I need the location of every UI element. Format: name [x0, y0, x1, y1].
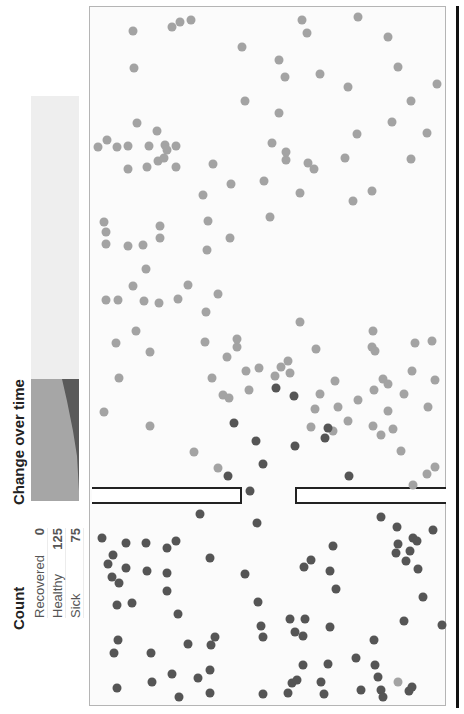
count-value-recovered: 0	[32, 528, 47, 535]
count-row-sick: Sick 75	[68, 528, 84, 618]
count-row-recovered: Recovered 0	[32, 528, 48, 618]
change-over-time-title: Change over time	[10, 379, 27, 505]
count-label-sick: Sick	[68, 593, 83, 618]
count-value-sick: 75	[68, 528, 83, 542]
wall-left-segment	[92, 487, 242, 504]
right-edge-bar	[456, 6, 459, 708]
count-value-healthy: 125	[50, 528, 65, 550]
count-label-healthy: Healthy	[50, 574, 65, 618]
side-panel: Count Recovered 0 Healthy 125 Sick 75 Ch…	[0, 0, 86, 714]
count-label-recovered: Recovered	[32, 555, 47, 618]
change-over-time-chart	[31, 96, 79, 501]
count-title: Count	[10, 587, 27, 630]
timeline-area-graph	[31, 96, 79, 501]
wall-right-segment	[295, 487, 446, 504]
count-row-healthy: Healthy 125	[50, 528, 66, 618]
simulation-arena	[89, 6, 446, 706]
